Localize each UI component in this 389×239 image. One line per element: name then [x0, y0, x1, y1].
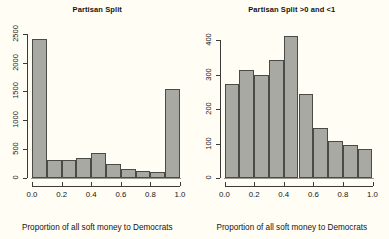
x-axis-label: 0.2: [47, 190, 77, 199]
x-axis-label: 0.4: [269, 190, 299, 199]
histogram-bar: [225, 84, 240, 178]
y-axis-line: [27, 34, 28, 178]
histogram-bar: [284, 36, 299, 178]
right-bars: [225, 30, 373, 178]
x-axis-tick: [180, 182, 181, 186]
y-axis-tick: [216, 109, 220, 110]
y-axis-tick: [23, 34, 27, 35]
x-axis-tick: [373, 182, 374, 186]
y-axis-label: 1000: [11, 103, 20, 137]
y-axis-tick: [216, 144, 220, 145]
x-axis-tick: [121, 182, 122, 186]
histogram-figure: Partisan Split 050010001500200025000.00.…: [0, 0, 389, 239]
histogram-bar: [299, 94, 314, 178]
y-axis-label: 300: [203, 57, 212, 91]
x-axis-label: 0.8: [328, 190, 358, 199]
x-axis-tick: [150, 182, 151, 186]
x-axis-label: 0.8: [135, 190, 165, 199]
right-panel: Partisan Split >0 and <1 01002003004000.…: [195, 0, 389, 239]
y-axis-line: [220, 40, 221, 178]
left-bars: [32, 28, 180, 178]
plot-baseline: [224, 178, 374, 179]
y-axis-tick: [216, 178, 220, 179]
histogram-bar: [136, 171, 151, 178]
y-axis-label: 100: [203, 126, 212, 160]
x-axis-tick: [254, 182, 255, 186]
x-axis-tick: [62, 182, 63, 186]
histogram-bar: [269, 60, 284, 178]
left-plot-area: [32, 28, 180, 178]
x-axis-tick: [313, 182, 314, 186]
histogram-bar: [239, 70, 254, 178]
histogram-bar: [343, 145, 358, 178]
histogram-bar: [32, 39, 47, 178]
x-axis-line: [32, 186, 180, 187]
x-axis-tick: [284, 182, 285, 186]
y-axis-tick: [216, 40, 220, 41]
x-axis-label: 0.6: [298, 190, 328, 199]
x-axis-label: 0.0: [17, 190, 47, 199]
x-axis-tick: [91, 182, 92, 186]
x-axis-label: 0.0: [210, 190, 240, 199]
histogram-bar: [106, 164, 121, 178]
y-axis-label: 200: [203, 92, 212, 126]
right-panel-title: Partisan Split >0 and <1: [195, 5, 389, 14]
x-axis-line: [225, 186, 373, 187]
left-x-caption: Proportion of all soft money to Democrat…: [0, 223, 195, 232]
x-axis-label: 0.6: [106, 190, 136, 199]
histogram-bar: [328, 141, 343, 178]
x-axis-label: 1.0: [165, 190, 195, 199]
left-panel: Partisan Split 050010001500200025000.00.…: [0, 0, 195, 239]
y-axis-tick: [23, 178, 27, 179]
x-axis-tick: [225, 182, 226, 186]
y-axis-tick: [216, 75, 220, 76]
x-axis-label: 1.0: [358, 190, 388, 199]
histogram-bar: [121, 169, 136, 178]
right-x-caption: Proportion of all soft money to Democrat…: [195, 223, 389, 232]
histogram-bar: [62, 160, 77, 178]
histogram-bar: [358, 149, 373, 178]
x-axis-label: 0.4: [76, 190, 106, 199]
x-axis-tick: [343, 182, 344, 186]
histogram-bar: [91, 153, 106, 178]
histogram-bar: [254, 75, 269, 178]
x-axis-label: 0.2: [239, 190, 269, 199]
y-axis-tick: [23, 91, 27, 92]
y-axis-label: 400: [203, 23, 212, 57]
y-axis-tick: [23, 63, 27, 64]
y-axis-label: 500: [11, 132, 20, 166]
histogram-bar: [165, 89, 180, 178]
y-axis-tick: [23, 120, 27, 121]
histogram-bar: [76, 158, 91, 178]
plot-baseline: [31, 178, 181, 179]
y-axis-tick: [23, 149, 27, 150]
left-panel-title: Partisan Split: [0, 5, 195, 14]
y-axis-label: 2500: [11, 16, 20, 50]
x-axis-tick: [32, 182, 33, 186]
histogram-bar: [313, 128, 328, 178]
histogram-bar: [47, 160, 62, 178]
right-plot-area: [225, 30, 373, 178]
